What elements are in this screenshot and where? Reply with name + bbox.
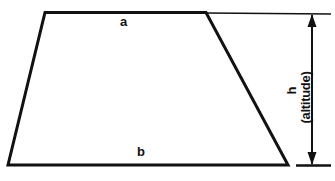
trapezoid-outline [8, 13, 288, 166]
top-base-label: a [120, 15, 127, 28]
altitude-arrow-down-icon [308, 152, 317, 165]
trapezoid-figure: a b h (altitude) [0, 0, 335, 181]
top-extension-line [206, 13, 331, 14]
altitude-arrow-up-icon [308, 14, 317, 27]
altitude-label: h [285, 87, 298, 95]
bottom-base-label: b [137, 145, 145, 158]
altitude-note-label: (altitude) [299, 72, 312, 124]
